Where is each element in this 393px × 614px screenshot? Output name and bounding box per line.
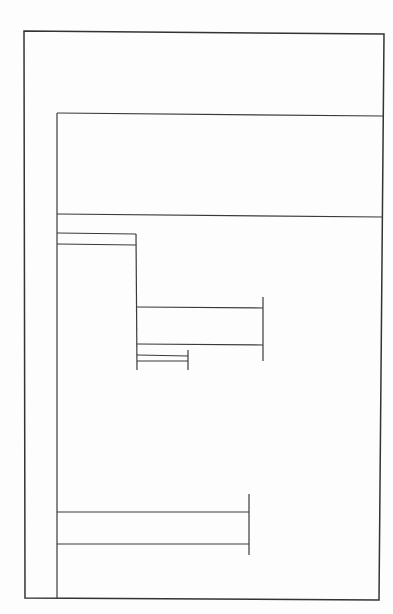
bar-2-bottom bbox=[137, 344, 263, 345]
line-diagram bbox=[0, 0, 393, 614]
bar-4 bbox=[57, 494, 249, 555]
bar-2-top bbox=[137, 307, 263, 308]
header-panel-divider bbox=[57, 214, 383, 217]
inner-frame-top-edge bbox=[57, 113, 383, 116]
bar-1-connector bbox=[136, 234, 137, 370]
bar-3 bbox=[137, 350, 188, 370]
outer-frame bbox=[24, 31, 384, 600]
bar-1 bbox=[57, 233, 137, 370]
bar-1-top bbox=[57, 233, 136, 234]
bar-1-bottom bbox=[57, 244, 136, 245]
bar-2 bbox=[137, 297, 263, 361]
bar-3-top bbox=[137, 355, 188, 356]
